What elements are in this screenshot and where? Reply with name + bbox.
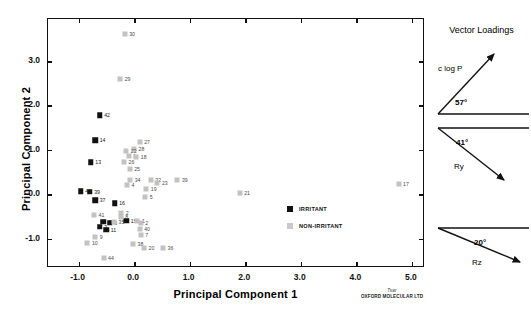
data-point-label: 18 xyxy=(141,154,147,160)
y-axis-tick-label: 1.0 xyxy=(10,144,40,154)
data-point-label: 34 xyxy=(135,177,141,183)
data-point-label: 9 xyxy=(100,234,103,240)
legend-label-irritant: IRRITANT xyxy=(299,206,327,212)
data-point xyxy=(128,177,133,182)
data-point-label: 36 xyxy=(168,245,174,251)
y-axis-tick xyxy=(47,239,52,241)
data-point-label: 14 xyxy=(100,137,106,143)
y-axis-tick xyxy=(47,150,52,152)
x-axis-tick xyxy=(79,262,81,267)
ry-vector-label: Ry xyxy=(454,162,464,171)
vendor-logo-text: Tsar xyxy=(352,288,432,293)
data-point-label: 28 xyxy=(139,146,145,152)
data-point-label: 25 xyxy=(134,166,140,172)
data-point xyxy=(143,194,148,199)
y-axis-tick xyxy=(419,150,424,152)
data-point-label: 39 xyxy=(94,189,100,195)
data-point xyxy=(101,256,106,261)
data-point xyxy=(97,224,103,230)
clogp-vector-angle: 57° xyxy=(455,98,467,107)
clogp-vector-icon xyxy=(432,42,531,120)
legend-label-non-irritant: NON-IRRITANT xyxy=(299,223,343,229)
data-point xyxy=(87,189,93,195)
x-axis-tick-label: 4.0 xyxy=(349,272,361,282)
data-point xyxy=(148,178,153,183)
data-point xyxy=(122,160,127,165)
x-axis-tick xyxy=(356,18,358,23)
data-point-label: 10 xyxy=(92,240,98,246)
chart-legend: IRRITANT NON-IRRITANT xyxy=(287,206,343,240)
x-axis-tick xyxy=(245,18,247,23)
y-axis-tick xyxy=(419,194,424,196)
y-axis-tick xyxy=(47,194,52,196)
data-point xyxy=(93,234,98,239)
x-axis-tick xyxy=(190,262,192,267)
data-point-label: 21 xyxy=(244,190,250,196)
y-axis-tick-label: -1.0 xyxy=(10,233,40,243)
data-point xyxy=(126,154,131,159)
data-point xyxy=(92,212,97,217)
x-axis-tick xyxy=(412,18,414,23)
data-point xyxy=(97,112,103,118)
data-point-label: 4 xyxy=(131,182,134,188)
legend-item-irritant: IRRITANT xyxy=(287,206,343,212)
y-axis-tick xyxy=(419,105,424,107)
x-axis-tick xyxy=(412,262,414,267)
x-axis-tick-label: 0.0 xyxy=(127,272,139,282)
x-axis-tick xyxy=(301,18,303,23)
rz-vector-label: Rz xyxy=(472,258,482,267)
legend-swatch-irritant xyxy=(287,206,293,212)
data-point xyxy=(124,183,129,188)
data-point-label: 26 xyxy=(129,159,135,165)
x-axis-tick-label: 2.0 xyxy=(238,272,250,282)
data-point xyxy=(78,188,84,194)
y-axis-tick xyxy=(47,105,52,107)
vector-loadings-title: Vector Loadings xyxy=(432,25,531,35)
data-point-label: 11 xyxy=(111,227,116,233)
legend-item-non-irritant: NON-IRRITANT xyxy=(287,223,343,229)
y-axis-tick-label: 0.0 xyxy=(10,188,40,198)
data-point-label: 16 xyxy=(119,200,125,206)
data-point xyxy=(124,148,129,153)
data-point-label: 17 xyxy=(403,181,409,187)
data-point-label: 23 xyxy=(162,180,168,186)
data-point xyxy=(112,219,117,224)
rz-vector-angle: 20° xyxy=(474,238,486,247)
scatter-plot-area: 4214134639371643631115302927282211826253… xyxy=(47,18,424,267)
x-axis-tick xyxy=(134,18,136,23)
vendor-mark: Tsar OXFORD MOLECULAR LTD xyxy=(352,288,432,299)
data-point xyxy=(92,198,98,204)
data-point xyxy=(122,31,127,36)
x-axis-tick xyxy=(79,18,81,23)
x-axis-tick-label: -1.0 xyxy=(70,272,85,282)
data-point xyxy=(112,201,118,207)
data-point xyxy=(155,181,160,186)
data-point xyxy=(161,246,166,251)
data-point-label: 27 xyxy=(144,139,150,145)
data-point-label: 29 xyxy=(125,76,131,82)
data-point xyxy=(137,226,142,231)
data-point xyxy=(175,177,180,182)
data-point xyxy=(138,232,143,237)
x-axis-tick xyxy=(134,262,136,267)
vendor-company-name: OXFORD MOLECULAR LTD xyxy=(352,294,432,299)
x-axis-tick-label: 5.0 xyxy=(405,272,417,282)
data-point xyxy=(88,159,94,165)
data-point-label: 5 xyxy=(150,194,153,200)
data-point xyxy=(118,76,123,81)
data-point xyxy=(137,139,142,144)
x-axis-tick-label: 3.0 xyxy=(294,272,306,282)
data-point xyxy=(237,191,242,196)
y-axis-tick xyxy=(419,61,424,63)
data-point-label: 35 xyxy=(119,219,125,225)
y-axis-tick-label: 2.0 xyxy=(10,99,40,109)
data-point xyxy=(104,227,110,233)
data-point xyxy=(396,182,401,187)
y-axis-tick xyxy=(47,61,52,63)
data-point xyxy=(144,186,149,191)
data-point xyxy=(127,166,132,171)
ry-vector-icon xyxy=(432,122,531,194)
y-axis-tick-label: 3.0 xyxy=(10,55,40,65)
data-point-label: 13 xyxy=(95,159,101,165)
rz-vector-icon xyxy=(432,222,531,284)
